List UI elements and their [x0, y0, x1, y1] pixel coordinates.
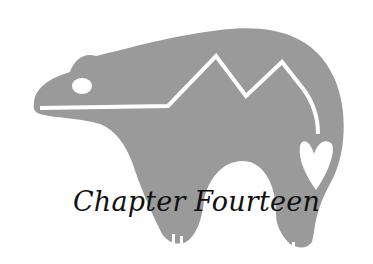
bear-eye: [72, 78, 92, 94]
bear-heartline-icon: [0, 0, 373, 264]
chapter-title: Chapter Fourteen: [0, 186, 373, 217]
